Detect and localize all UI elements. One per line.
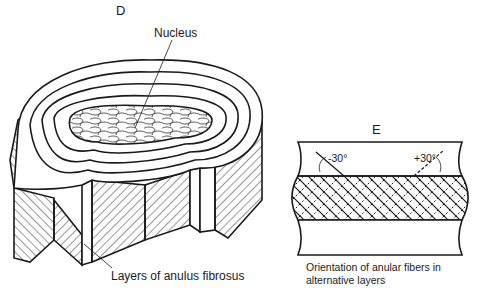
angle-minus-30-label: -30° <box>328 152 347 164</box>
disc-illustration <box>0 0 479 288</box>
orientation-caption-line2: alternative layers <box>306 274 385 286</box>
fiber-orientation-drawing <box>292 142 468 255</box>
anulus-layers-label: Layers of anulus fibrosus <box>111 270 244 283</box>
orientation-caption-line1: Orientation of anular fibers in <box>306 261 441 273</box>
disc-drawing <box>10 40 262 268</box>
angle-plus-30-label: +30° <box>414 152 436 164</box>
panel-e-letter: E <box>372 122 381 137</box>
nucleus-label: Nucleus <box>154 27 197 40</box>
panel-d-letter: D <box>116 3 125 18</box>
